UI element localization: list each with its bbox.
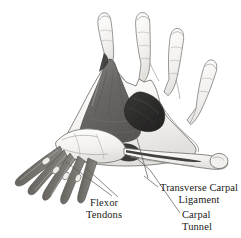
label-flexor-tendons-line2: Tendons: [86, 209, 122, 221]
label-transverse-carpal-ligament-line1: Transverse Carpal: [160, 182, 238, 194]
label-carpal-tunnel: Carpal Tunnel: [182, 209, 212, 232]
label-transverse-carpal-ligament-line2: Ligament: [160, 194, 238, 206]
carpal-tunnel-figure: Flexor Tendons Transverse Carpal Ligamen…: [0, 0, 241, 238]
label-flexor-tendons-line1: Flexor: [86, 197, 122, 209]
label-flexor-tendons: Flexor Tendons: [86, 197, 122, 220]
label-transverse-carpal-ligament: Transverse Carpal Ligament: [160, 182, 238, 205]
thumb-nail: [210, 153, 228, 168]
label-carpal-tunnel-line2: Tunnel: [182, 221, 212, 233]
label-carpal-tunnel-line1: Carpal: [182, 209, 212, 221]
